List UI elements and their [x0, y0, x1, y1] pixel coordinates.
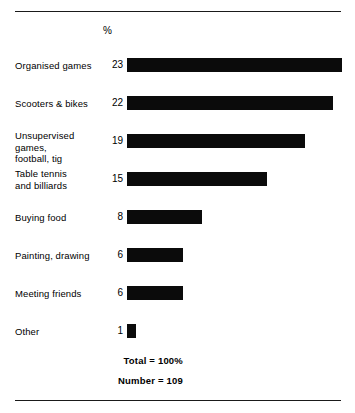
- category-label: Meeting friends: [15, 288, 101, 300]
- category-label: Organised games: [15, 60, 101, 72]
- value-label: 1: [96, 325, 123, 337]
- bar-chart: % Organised games23Scooters & bikes22Uns…: [0, 0, 355, 413]
- value-label: 19: [96, 135, 123, 147]
- chart-row: Scooters & bikes22: [0, 90, 355, 128]
- value-label: 6: [96, 287, 123, 299]
- chart-row: Table tennis and billiards15: [0, 166, 355, 204]
- category-label: Other: [15, 326, 101, 338]
- bar: [127, 286, 183, 300]
- category-label: Scooters & bikes: [15, 98, 101, 110]
- chart-row: Painting, drawing6: [0, 242, 355, 280]
- bar-track: [127, 248, 355, 262]
- chart-row: Unsupervised games, football, tig19: [0, 128, 355, 166]
- bar: [127, 58, 342, 72]
- chart-rows: Organised games23Scooters & bikes22Unsup…: [0, 52, 355, 356]
- bar: [127, 248, 183, 262]
- category-label: Table tennis and billiards: [15, 168, 101, 191]
- category-label: Unsupervised games, football, tig: [15, 130, 101, 165]
- value-label: 22: [96, 97, 123, 109]
- chart-row: Meeting friends6: [0, 280, 355, 318]
- value-label: 6: [96, 249, 123, 261]
- top-rule: [15, 11, 341, 12]
- bottom-rule: [15, 400, 341, 401]
- bar: [127, 134, 305, 148]
- value-label: 23: [96, 59, 123, 71]
- value-label: 8: [96, 211, 123, 223]
- bar-track: [127, 172, 355, 186]
- bar: [127, 172, 267, 186]
- category-label: Buying food: [15, 212, 101, 224]
- total-annotation: Total = 100%: [0, 355, 183, 367]
- bar-track: [127, 96, 355, 110]
- chart-row: Other1: [0, 318, 355, 356]
- bar-track: [127, 58, 355, 72]
- category-label: Painting, drawing: [15, 250, 101, 262]
- bar: [127, 210, 202, 224]
- chart-footer: Total = 100% Number = 109: [0, 355, 183, 395]
- percent-column-header: %: [103, 25, 112, 37]
- chart-row: Organised games23: [0, 52, 355, 90]
- bar: [127, 96, 333, 110]
- bar-track: [127, 286, 355, 300]
- number-annotation: Number = 109: [0, 375, 183, 387]
- bar-track: [127, 210, 355, 224]
- value-label: 15: [96, 173, 123, 185]
- chart-row: Buying food8: [0, 204, 355, 242]
- bar-track: [127, 134, 355, 148]
- bar-track: [127, 324, 355, 338]
- bar: [127, 324, 136, 338]
